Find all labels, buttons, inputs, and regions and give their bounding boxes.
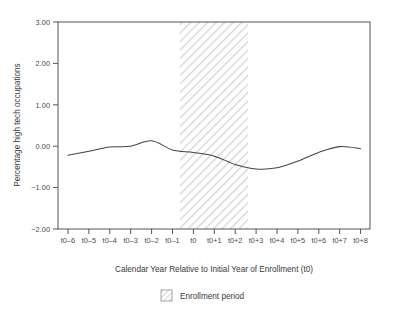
x-tick-label: t0–1 xyxy=(165,236,179,245)
x-tick-label: t0–6 xyxy=(61,236,75,245)
x-tick-label: t0+6 xyxy=(312,236,327,245)
y-tick-label: −2.00 xyxy=(31,225,50,234)
enrollment-period-band xyxy=(180,22,248,229)
x-tick-label: t0+1 xyxy=(207,236,222,245)
x-tick-label: t0+3 xyxy=(249,236,264,245)
x-tick-label: t0+7 xyxy=(332,236,347,245)
x-tick-label: t0–2 xyxy=(144,236,158,245)
y-tick-label: 1.00 xyxy=(36,101,50,110)
x-tick-label: t0+8 xyxy=(353,236,368,245)
x-axis-tick-labels: t0–6 t0–5 t0–4 t0–3 t0–2 t0–1 t0 t0+1 t0… xyxy=(61,236,368,245)
x-tick-label: t0–4 xyxy=(103,236,117,245)
y-tick-label: 2.00 xyxy=(36,59,50,68)
y-tick-label: 3.00 xyxy=(36,18,50,27)
x-tick-label: t0+2 xyxy=(228,236,243,245)
x-axis-title: Calendar Year Relative to Initial Year o… xyxy=(115,265,313,274)
x-tick-label: t0+5 xyxy=(291,236,306,245)
x-tick-label: t0 xyxy=(190,236,196,245)
line-chart-canvas: 3.00 2.00 1.00 0.00 −1.00 −2.00 xyxy=(0,0,400,312)
y-tick-label: 0.00 xyxy=(36,142,50,151)
legend-item-label: Enrollment period xyxy=(180,292,245,301)
y-tick-label: −1.00 xyxy=(31,183,50,192)
x-tick-label: t0+4 xyxy=(270,236,285,245)
y-axis-title: Percentage high tech occupations xyxy=(13,63,22,186)
x-tick-label: t0–5 xyxy=(82,236,96,245)
chart-figure: 3.00 2.00 1.00 0.00 −1.00 −2.00 xyxy=(0,0,400,312)
hatch-swatch-icon xyxy=(161,290,172,301)
x-tick-label: t0–3 xyxy=(124,236,138,245)
